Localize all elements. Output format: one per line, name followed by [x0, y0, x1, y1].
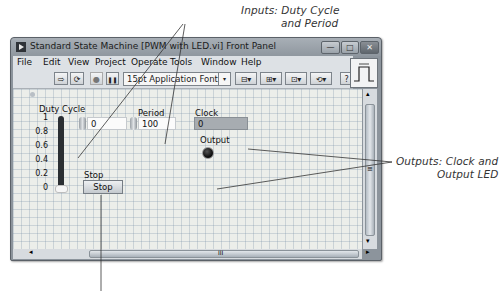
menu-tools[interactable]: Tools — [170, 57, 192, 67]
period-numeric-control[interactable]: 100 — [138, 117, 176, 130]
run-arrow-icon: ⇨ — [58, 75, 65, 84]
vertical-scroll-thumb[interactable]: ≡ — [365, 104, 375, 236]
scroll-left-arrow-icon[interactable]: ◂ — [29, 248, 33, 256]
vertical-scrollbar[interactable]: ▴ ≡ ▾ — [363, 89, 377, 249]
maximize-icon: □ — [346, 43, 354, 52]
reorder-icon: ⟲▾ — [316, 75, 327, 84]
menu-view[interactable]: View — [68, 57, 89, 67]
duty-cycle-slider-track[interactable] — [58, 116, 64, 191]
duty-scale-tick-0.2: 0.2 — [32, 169, 48, 178]
period-increment-decrement[interactable] — [130, 117, 137, 130]
labview-vi-icon — [16, 42, 26, 52]
annotation-outputs-line1: Outputs: Clock and — [396, 155, 499, 168]
menu-project[interactable]: Project — [95, 57, 126, 67]
output-led-indicator — [202, 147, 214, 159]
menu-window[interactable]: Window — [201, 57, 237, 67]
distribute-objects-button[interactable]: ⊞▾ — [260, 72, 282, 85]
origin-marker — [30, 92, 35, 97]
resize-objects-button[interactable]: ⊡▾ — [285, 72, 307, 85]
close-button[interactable]: ✕ — [360, 41, 379, 54]
maximize-button[interactable]: □ — [341, 41, 359, 54]
horizontal-scroll-thumb[interactable]: III — [89, 250, 359, 258]
window-title: Standard State Machine [PWM with LED.vi]… — [30, 41, 276, 51]
menu-edit[interactable]: Edit — [43, 57, 60, 67]
annotation-outputs-line2: Output LED — [396, 168, 499, 181]
horizontal-scrollbar[interactable]: ◂ III ▸ — [13, 249, 362, 259]
vi-icon-pane[interactable] — [350, 58, 378, 88]
duty-scale-tick-1: 1 — [32, 113, 48, 122]
menu-file[interactable]: File — [17, 57, 32, 67]
scroll-up-arrow-icon[interactable]: ▴ — [366, 90, 370, 98]
menu-bar: File Edit View Project Operate Tools Win… — [13, 56, 353, 70]
front-panel-window: Standard State Machine [PWM with LED.vi]… — [10, 37, 382, 261]
chevron-down-icon: ▾ — [218, 73, 230, 85]
title-bar[interactable]: Standard State Machine [PWM with LED.vi]… — [11, 38, 381, 56]
scroll-right-arrow-icon[interactable]: ▸ — [366, 248, 370, 256]
duty-scale-tick-0.6: 0.6 — [32, 141, 48, 150]
pause-icon: ❚❚ — [107, 76, 117, 83]
minimize-button[interactable]: — — [321, 41, 340, 54]
resize-objects-icon: ⊡▾ — [291, 75, 302, 84]
duty-scale-tick-0.8: 0.8 — [32, 127, 48, 136]
font-select-value: 15pt Application Font — [127, 74, 218, 84]
annotation-outputs: Outputs: Clock and Output LED — [396, 155, 499, 181]
clock-numeric-indicator: 0 — [194, 117, 248, 130]
run-button[interactable]: ⇨ — [54, 72, 68, 85]
pause-button[interactable]: ❚❚ — [106, 72, 119, 85]
annotation-inputs-line1: Inputs: Duty Cycle — [241, 4, 361, 17]
output-label: Output — [200, 135, 230, 145]
reorder-button[interactable]: ⟲▾ — [310, 72, 332, 85]
align-objects-button[interactable]: ⊟▾ — [235, 72, 257, 85]
abort-button[interactable]: ● — [90, 72, 103, 85]
minimize-icon: — — [327, 43, 335, 52]
abort-icon: ● — [93, 75, 100, 84]
help-icon: ? — [344, 75, 348, 84]
grip-icon: ≡ — [367, 165, 373, 173]
align-objects-icon: ⊟▾ — [241, 75, 252, 84]
duty-cycle-slider-knob[interactable] — [55, 185, 68, 193]
menu-help[interactable]: Help — [241, 57, 262, 67]
distribute-objects-icon: ⊞▾ — [266, 75, 277, 84]
duty-scale-tick-0: 0 — [32, 183, 48, 192]
duty-cycle-numeric-control[interactable]: 0 — [87, 117, 127, 130]
toolbar: ⇨ ⟳ ● ❚❚ 15pt Application Font ▾ ⊟▾ ⊞▾ ⊡… — [13, 70, 353, 89]
duty-cycle-increment-decrement[interactable] — [79, 117, 86, 130]
front-panel-canvas[interactable]: Duty Cycle 1 0.8 0.6 0.4 0.2 0 0 Period … — [13, 89, 362, 249]
run-continuously-button[interactable]: ⟳ — [70, 72, 84, 85]
stop-label: Stop — [84, 170, 103, 180]
menu-operate[interactable]: Operate — [131, 57, 168, 67]
text-settings-dropdown[interactable]: 15pt Application Font ▾ — [123, 72, 231, 86]
stop-button[interactable]: Stop — [83, 180, 123, 194]
grip-icon: III — [218, 249, 223, 256]
duty-scale-tick-0.4: 0.4 — [32, 155, 48, 164]
scroll-down-arrow-icon[interactable]: ▾ — [366, 237, 370, 245]
annotation-inputs-line2: and Period — [241, 17, 361, 30]
close-icon: ✕ — [366, 43, 373, 52]
run-continuously-icon: ⟳ — [74, 75, 81, 84]
annotation-inputs: Inputs: Duty Cycle and Period — [241, 4, 361, 30]
pulse-waveform-icon — [351, 59, 377, 87]
